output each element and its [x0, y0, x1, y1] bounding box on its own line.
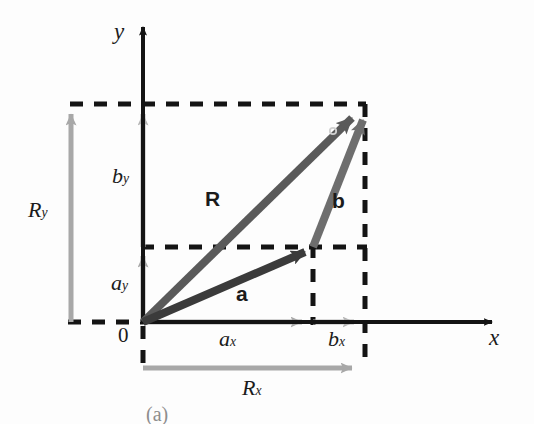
- coordinate-axes: [143, 27, 492, 322]
- component-label-Ry: Ry: [28, 199, 48, 221]
- origin-label: 0: [118, 325, 129, 346]
- component-label-ay: ay: [111, 272, 128, 294]
- component-label-by: by: [112, 165, 129, 187]
- component-label-Rx-sub: x: [255, 383, 261, 398]
- component-label-by-base: b: [112, 163, 123, 188]
- component-label-Rx-base: R: [242, 375, 255, 400]
- component-label-Rx: Rx: [242, 377, 262, 399]
- component-label-ax-sub: x: [230, 334, 236, 349]
- component-label-by-sub: y: [123, 171, 129, 186]
- x-axis-label: x: [489, 326, 499, 349]
- component-label-bx: bx: [328, 328, 345, 350]
- figure-canvas: [0, 0, 534, 424]
- vector-label-R: R: [205, 188, 220, 209]
- component-label-bx-sub: x: [339, 334, 345, 349]
- vector-b: [313, 120, 363, 247]
- component-label-ax: ax: [219, 328, 236, 350]
- vector-a: [143, 252, 305, 322]
- component-label-Ry-base: R: [28, 197, 41, 222]
- component-label-ay-base: a: [111, 270, 122, 295]
- figure-caption: (a): [146, 404, 168, 424]
- vector-label-b: b: [332, 190, 345, 211]
- main-vectors: [143, 118, 363, 322]
- y-axis-label: y: [114, 20, 124, 43]
- component-label-bx-base: b: [328, 326, 339, 351]
- vector-label-a: a: [236, 283, 248, 304]
- component-label-Ry-sub: y: [41, 205, 47, 220]
- component-label-ax-base: a: [219, 326, 230, 351]
- vector-addition-figure: y x 0 R a b Ry by ay ax bx Rx (a): [0, 0, 534, 424]
- component-label-ay-sub: y: [122, 278, 128, 293]
